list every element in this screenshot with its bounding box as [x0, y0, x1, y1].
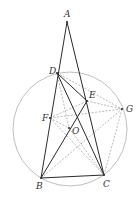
points — [40, 21, 123, 179]
segment-bg — [41, 109, 122, 178]
point-d — [56, 72, 58, 74]
label-c: C — [103, 179, 110, 189]
segment-ab — [41, 22, 67, 178]
geometry-diagram: ADEGFOBC — [0, 0, 140, 197]
point-f — [49, 117, 51, 119]
point-g — [121, 108, 123, 110]
label-f: F — [41, 113, 49, 123]
segment-bc — [41, 175, 104, 178]
point-a — [66, 21, 68, 23]
point-b — [40, 177, 42, 179]
segment-gc — [104, 109, 122, 175]
label-g: G — [126, 104, 133, 114]
segment-ac — [67, 22, 104, 175]
label-d: D — [48, 66, 56, 76]
segment-fg — [50, 109, 122, 118]
label-a: A — [63, 9, 71, 19]
segment-eg — [87, 101, 122, 109]
solid-lines — [41, 22, 104, 178]
point-o — [68, 127, 70, 129]
segment-dc — [57, 73, 104, 175]
label-e: E — [88, 90, 96, 100]
point-e — [86, 100, 88, 102]
label-b: B — [35, 181, 43, 191]
segment-do — [57, 73, 69, 128]
label-o: O — [72, 126, 80, 136]
point-c — [103, 174, 105, 176]
segment-fo — [50, 118, 69, 128]
